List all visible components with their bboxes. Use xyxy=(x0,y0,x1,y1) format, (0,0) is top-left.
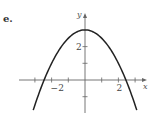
x-axis-label: x xyxy=(143,82,148,91)
y-tick-label: 2 xyxy=(76,42,82,52)
x-axis xyxy=(19,78,147,82)
tick-labels: −222 xyxy=(51,42,123,93)
y-axis-label: y xyxy=(76,10,82,19)
parabola-chart: −222 y x xyxy=(0,0,149,122)
y-axis-arrow-icon xyxy=(83,13,87,18)
x-tick-label: 2 xyxy=(116,83,122,93)
x-tick-label: −2 xyxy=(51,83,64,93)
